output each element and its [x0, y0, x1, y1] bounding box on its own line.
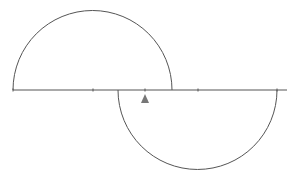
semicircles-diagram: [0, 0, 291, 181]
upper-semicircle: [13, 10, 172, 90]
fulcrum-triangle-icon: [141, 94, 149, 103]
